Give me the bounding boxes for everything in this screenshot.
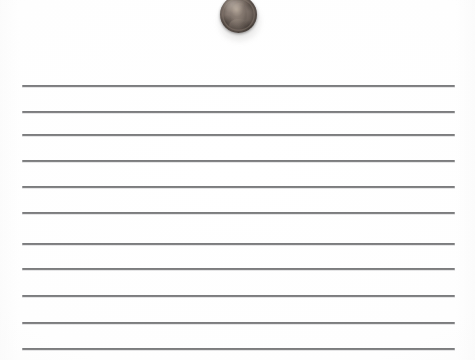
coin-drop-shadow <box>217 0 262 43</box>
paper-rule-line <box>22 243 455 245</box>
paper-rule-line <box>22 295 455 297</box>
paper-sheet <box>0 0 475 360</box>
paper-rule-line <box>22 111 455 113</box>
paper-rule-line <box>22 322 455 324</box>
paper-rule-line <box>22 212 455 214</box>
paper-rule-line <box>22 186 455 188</box>
paper-rule-line <box>22 268 455 270</box>
paper-rule-line <box>22 85 455 87</box>
paper-rule-line <box>22 134 455 136</box>
paper-rule-line <box>22 348 455 350</box>
paper-rule-line <box>22 160 455 162</box>
photo-scene <box>0 0 475 360</box>
